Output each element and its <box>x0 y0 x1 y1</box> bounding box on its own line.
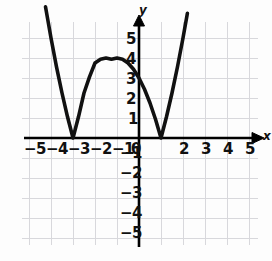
y-tick-label: −1 <box>120 146 142 161</box>
x-tick-label: 4 <box>223 142 233 157</box>
x-axis-name: x <box>263 130 270 142</box>
x-tick-label: 2 <box>179 142 189 157</box>
x-tick-label: −5 <box>24 142 46 157</box>
x-tick-label: 5 <box>245 142 255 157</box>
y-tick-label: 1 <box>128 112 138 127</box>
x-tick-label: −3 <box>68 142 90 157</box>
y-axis-name: y <box>139 4 146 16</box>
y-tick-label: −5 <box>120 226 142 241</box>
x-tick-label: 3 <box>201 142 211 157</box>
y-tick-label: −4 <box>120 206 142 221</box>
y-tick-label: 4 <box>126 52 136 67</box>
axes <box>24 15 264 247</box>
x-tick-label: −4 <box>46 142 68 157</box>
y-tick-label: 5 <box>126 32 136 47</box>
graph-figure: −5 −4 −3 −2 −1 0 2 3 4 5 5 4 3 2 1 −1 −2… <box>0 0 272 261</box>
y-tick-label: −3 <box>120 186 142 201</box>
y-tick-label: 3 <box>126 72 136 87</box>
y-tick-label: −2 <box>120 166 142 181</box>
x-tick-label: −2 <box>90 142 112 157</box>
y-tick-label: 2 <box>126 92 136 107</box>
